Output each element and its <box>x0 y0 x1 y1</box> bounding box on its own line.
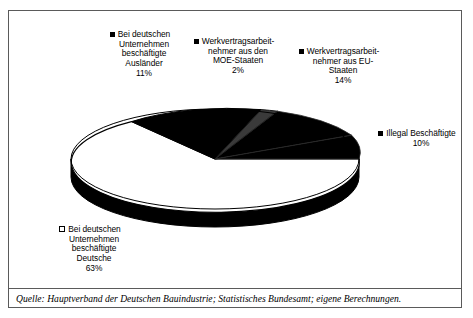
pie-label-illegal: Illegal Beschäftigte 10% <box>367 129 461 148</box>
source-divider <box>9 288 461 289</box>
legend-marker-black <box>299 49 304 54</box>
pie-chart-3d <box>55 77 365 237</box>
pie-label-auslaender: Bei deutschen Unternehmen beschäftigte A… <box>92 30 196 79</box>
pie-label-auslaender-text: Bei deutschen Unternehmen beschäftigte A… <box>118 29 170 78</box>
figure-frame: Bei deutschen Unternehmen beschäftigte A… <box>8 10 462 308</box>
source-note: Quelle: Hauptverband der Deutschen Bauin… <box>16 293 401 304</box>
pie-label-moe-text: Werkvertragsarbeit- nehmer aus den MOE-S… <box>202 36 274 75</box>
pie-label-deutsche-text: Bei deutschen Unternehmen beschäftigte D… <box>68 224 120 273</box>
legend-marker-white <box>59 226 65 232</box>
legend-marker-black <box>110 32 115 37</box>
legend-marker-black <box>194 39 199 44</box>
pie-label-deutsche: Bei deutschen Unternehmen beschäftigte D… <box>38 225 150 274</box>
pie-chart-area: Bei deutschen Unternehmen beschäftigte A… <box>9 11 461 288</box>
pie-label-moe: Werkvertragsarbeit- nehmer aus den MOE-S… <box>186 37 290 76</box>
pie-label-eu-text: Werkvertragsarbeit- nehmer aus EU- Staat… <box>307 46 379 85</box>
pie-label-illegal-text: Illegal Beschäftigte 10% <box>386 128 455 148</box>
pie-label-eu: Werkvertragsarbeit- nehmer aus EU- Staat… <box>291 47 395 86</box>
legend-marker-black <box>378 131 383 136</box>
